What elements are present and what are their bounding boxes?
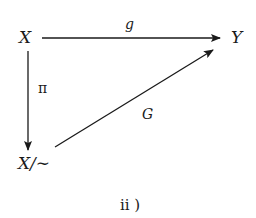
arrow-label-pi: π <box>38 81 47 95</box>
commutative-diagram: X Y X/∼ g π G ii ) <box>0 0 256 218</box>
node-x-quotient: X/∼ <box>18 155 50 172</box>
arrow-label-G: G <box>142 107 153 121</box>
node-x: X <box>19 29 31 46</box>
arrows-layer <box>0 0 256 218</box>
arrow-label-g: g <box>125 17 134 31</box>
arrow-G <box>55 50 213 147</box>
node-y: Y <box>231 29 242 46</box>
figure-caption: ii ) <box>120 198 140 213</box>
